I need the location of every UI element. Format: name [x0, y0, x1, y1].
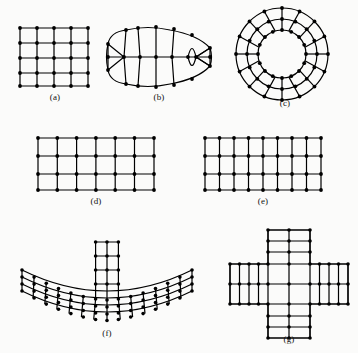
mesh-c-nodes	[234, 6, 330, 102]
mesh-e-drawing	[203, 136, 323, 192]
caption-f: (f)	[18, 328, 196, 338]
caption-c: (c)	[232, 98, 338, 108]
mesh-f-drawing	[18, 232, 196, 332]
panel-b-lens-mesh: (b)	[104, 26, 214, 108]
mesh-d-edges	[38, 138, 154, 190]
caption-b: (b)	[104, 92, 214, 102]
panel-c-annulus-mesh: (c)	[232, 6, 338, 110]
mesh-b-drawing	[104, 26, 214, 88]
panel-f-curved-band-mesh: (f)	[18, 232, 196, 342]
panel-e-graded-grid: (e)	[203, 136, 323, 208]
mesh-a-drawing	[18, 26, 92, 88]
caption-e: (e)	[203, 196, 323, 206]
caption-a: (a)	[18, 92, 92, 102]
mesh-c-drawing	[232, 6, 338, 106]
caption-g: (g)	[228, 334, 350, 344]
mesh-g-drawing	[228, 228, 350, 340]
panel-g-cross-mesh: (g)	[228, 228, 350, 346]
panel-a-square-grid: (a)	[18, 26, 92, 108]
mesh-d-drawing	[36, 136, 156, 192]
figure-sheet: (a)	[0, 0, 358, 353]
panel-d-rectangular-grid: (d)	[36, 136, 156, 208]
caption-d: (d)	[36, 196, 156, 206]
mesh-e-edges	[205, 138, 321, 190]
